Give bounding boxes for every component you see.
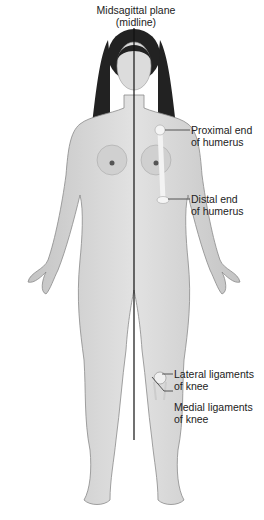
proximal-humerus-label: Proximal end of humerus [191,124,252,148]
midsagittal-plane-label: Midsagittal plane (midline) [90,4,182,28]
distal-humerus-label: Distal end of humerus [191,193,244,217]
lateral-ligaments-label: Lateral ligaments of knee [174,368,254,392]
humerus-bone [160,130,163,200]
medial-ligaments-label: Medial ligaments of knee [174,401,253,425]
anatomy-figure [0,0,264,520]
